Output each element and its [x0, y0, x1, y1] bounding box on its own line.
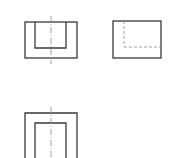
- top-view: [25, 107, 77, 158]
- projection-drawing: [0, 0, 177, 158]
- top-inner-outline: [35, 123, 66, 158]
- side-outer-outline: [113, 21, 161, 58]
- front-view: [25, 16, 77, 64]
- side-view: [113, 21, 161, 58]
- front-inner-cavity: [35, 22, 66, 48]
